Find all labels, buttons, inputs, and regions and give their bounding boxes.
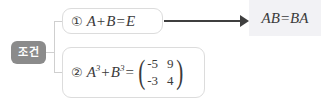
matrix-grid: -5 9 -3 4 [147,57,173,89]
matrix-open-paren: ( [138,57,145,88]
condition-2-term-b: B3 [111,64,125,81]
condition-box-2: ② A3 + B3 = ( -5 9 -3 4 ) [62,47,205,98]
condition-badge: 조건 [11,41,46,64]
matrix-cell-r1c1: -5 [147,57,158,72]
condition-2-term-a: A3 [87,64,101,81]
condition-box-1: ① A + B = E [62,8,163,34]
condition-2-term-a-exponent: 3 [96,63,101,73]
condition-1-expression: ① A + B = E [71,13,135,30]
condition-diagram: 조건 ① A + B = E ② A3 + B3 = ( -5 9 [0,0,321,105]
condition-1-term-a: A [87,13,96,30]
condition-1-equals: = [116,13,124,30]
condition-1-plus: + [97,13,105,30]
result-expression: AB=BA [262,10,309,27]
condition-2-marker: ② [71,65,83,80]
condition-2-equals: = [125,64,133,81]
matrix-close-paren: ) [176,57,183,88]
condition-2-term-b-exponent: 3 [120,63,125,73]
implication-arrow-head [240,15,249,27]
bracket-spine [54,21,55,72]
result-panel: AB=BA [249,0,321,36]
implication-arrow-line [164,20,242,22]
condition-2-expression: ② A3 + B3 = ( -5 9 -3 4 ) [71,57,185,89]
matrix-cell-r2c1: -3 [147,74,158,89]
matrix: ( -5 9 -3 4 ) [136,57,185,89]
condition-badge-label: 조건 [18,47,39,58]
condition-1-rhs: E [126,13,135,30]
matrix-cell-r2c2: 4 [167,74,174,89]
condition-1-term-b: B [106,13,115,30]
condition-2-plus: + [101,64,109,81]
matrix-cell-r1c2: 9 [167,57,174,72]
condition-1-marker: ① [71,14,83,29]
